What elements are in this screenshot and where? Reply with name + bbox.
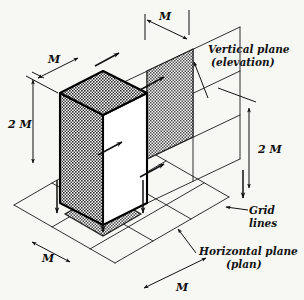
dimension-label-bottom-left-m: M [41, 252, 55, 265]
annotation-vertical-plane-line1: Vertical plane [208, 43, 290, 55]
dimension-label-left-2m: 2 M [7, 118, 32, 131]
dimension-label-upper-left-m: M [47, 53, 61, 66]
dimension-label-bottom-right-m: M [175, 281, 189, 294]
dimension-label-top-m: M [158, 10, 172, 23]
annotation-vertical-plane-line2: (elevation) [211, 56, 275, 68]
annotation-horizontal-plane-line1: Horizontal plane [198, 245, 298, 257]
annotation-grid-lines-line1: Grid [249, 204, 275, 216]
annotation-grid-lines-line2: lines [249, 217, 277, 229]
dimension-label-right-2m: 2 M [257, 143, 282, 156]
annotation-horizontal-plane-line2: (plan) [226, 258, 262, 270]
isometric-grid-diagram: M M 2 M 2 M M [0, 0, 304, 300]
diagram-canvas: M M 2 M 2 M M [0, 0, 304, 300]
